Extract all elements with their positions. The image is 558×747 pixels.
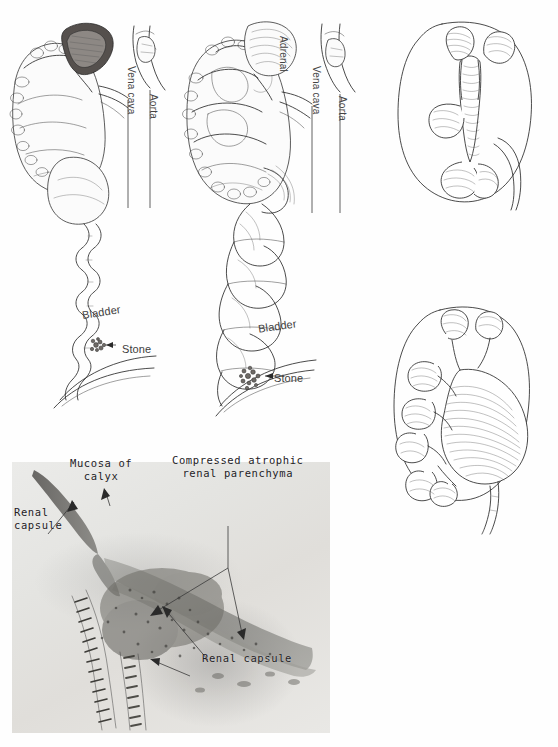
figure-kidney-cast-hydronephrotic: [386, 296, 558, 531]
tissue-flecks: [195, 671, 300, 692]
gross-right-drawing: [176, 8, 366, 418]
ureter-hydro-cast: [482, 482, 499, 534]
great-vessels-right: [312, 24, 355, 213]
stone-shape-right: [239, 366, 260, 390]
callout-mucosa-of-calyx: [101, 488, 110, 506]
kidney-normal-drawing: [386, 14, 556, 214]
great-vessels-left: [128, 26, 165, 208]
illustration-plate: Vena cava Aorta Bladder Stone: [0, 0, 558, 747]
figure-kidney-cast-normal: [386, 14, 556, 214]
stone-shape-left: [90, 338, 105, 352]
bladder-left: [54, 356, 156, 408]
ureter-tortuous-left: [65, 224, 101, 400]
stone-callout-left: [82, 330, 142, 360]
figure-gross-specimen-right: Adrenal Vena cava Aorta Bladder Stone: [176, 8, 366, 418]
tissue-capsule-band: [32, 470, 120, 596]
figure-histology-photomicrograph: Mucosa of calyx Renal capsule Compressed…: [12, 462, 330, 733]
stone-arrowhead-right: [265, 373, 273, 379]
stone-arrowhead-left: [106, 342, 113, 348]
callout-capsule-pointer: [150, 658, 190, 676]
kidney-hydro-drawing: [386, 296, 558, 531]
histology-tissue-and-callouts: [12, 462, 330, 733]
pelvicalyceal-cast-normal: [429, 27, 515, 198]
stone-callout-right: [234, 358, 304, 394]
dilated-pelvis-cast: [441, 369, 527, 484]
ureter-normal-cast: [494, 138, 521, 210]
